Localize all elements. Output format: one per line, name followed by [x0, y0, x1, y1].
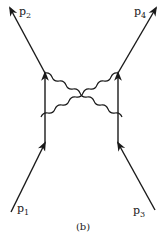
- label-p3: p3: [133, 204, 145, 219]
- photon-line-1: [45, 73, 122, 117]
- feynman-diagram: p2 p4 p1 p3 (b): [0, 0, 166, 240]
- label-p1: p1: [17, 202, 29, 217]
- external-line-p3: [118, 143, 155, 210]
- caption: (b): [76, 221, 90, 232]
- label-p2: p2: [19, 5, 31, 20]
- photon-line-2: [41, 73, 118, 117]
- label-p4: p4: [134, 5, 146, 20]
